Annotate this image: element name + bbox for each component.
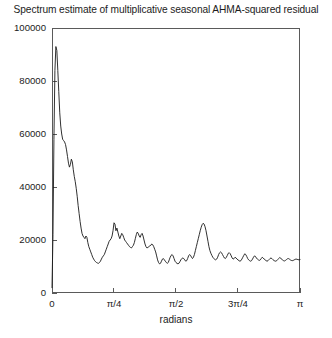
x-axis-title: radians	[52, 314, 300, 325]
x-tick-label: 3π/4	[218, 298, 258, 309]
x-tick-label: π/4	[94, 298, 134, 309]
spectrum-chart-figure: Spectrum estimate of multiplicative seas…	[0, 0, 332, 338]
x-tick-label: π	[280, 298, 320, 309]
x-tick-label: π/2	[156, 298, 196, 309]
x-tick-label: 0	[32, 298, 72, 309]
x-axis-tick-labels: 0π/4π/23π/4π	[0, 0, 332, 338]
